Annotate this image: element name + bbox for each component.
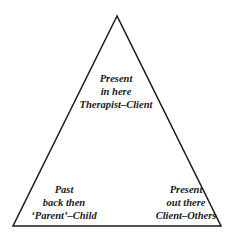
- label-line: in here: [66, 85, 166, 98]
- label-line: Client–Others: [144, 209, 228, 222]
- label-line: ‘Parent’–Child: [22, 209, 106, 222]
- label-line: Past: [22, 183, 106, 196]
- label-line: Therapist–Client: [66, 98, 166, 111]
- label-line: back then: [22, 196, 106, 209]
- vertex-label-past-back-then: Past back then ‘Parent’–Child: [22, 183, 106, 222]
- vertex-label-present-in-here: Present in here Therapist–Client: [66, 72, 166, 111]
- label-line: Present: [66, 72, 166, 85]
- label-line: Present: [144, 183, 228, 196]
- triangle-diagram: Present in here Therapist–Client Past ba…: [0, 0, 233, 242]
- vertex-label-present-out-there: Present out there Client–Others: [144, 183, 228, 222]
- label-line: out there: [144, 196, 228, 209]
